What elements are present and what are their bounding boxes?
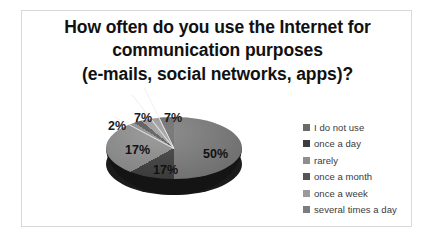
legend-swatch-icon [303,140,310,147]
legend-item-once-a-day[interactable]: once a day [303,136,428,153]
legend-label: once a week [314,188,368,199]
legend-item-once-a-week[interactable]: once a week [303,185,428,202]
data-label-once-a-month: 2% [108,119,126,133]
legend-label: rarely [314,155,338,166]
chart-legend: I do not use once a day rarely once a mo… [303,119,428,218]
data-label-several-times-a-day: 50% [203,147,228,161]
legend-item-i-do-not-use[interactable]: I do not use [303,119,428,136]
data-label-once-a-day: 17% [153,163,178,177]
legend-label: once a day [314,138,361,149]
legend-swatch-icon [303,157,310,164]
legend-swatch-icon [303,190,310,197]
legend-item-once-a-month[interactable]: once a month [303,169,428,186]
chart-title-line-2: communication purposes [30,39,405,62]
legend-label: several times a day [314,204,397,215]
legend-swatch-icon [303,206,310,213]
pie-chart-plot-area: 50% 17% 17% 2% 7% 7% [22,103,302,228]
legend-item-rarely[interactable]: rarely [303,152,428,169]
chart-title-line-1: How often do you use the Internet for [30,16,405,39]
legend-label: once a month [314,171,372,182]
data-label-once-a-week: 7% [134,111,152,125]
chart-frame: How often do you use the Internet for co… [21,10,412,227]
legend-label: I do not use [314,122,364,133]
chart-title: How often do you use the Internet for co… [30,16,405,86]
chart-title-line-3: (e-mails, social networks, apps)? [30,63,405,86]
legend-swatch-icon [303,124,310,131]
data-label-rarely: 17% [125,143,150,157]
legend-swatch-icon [303,173,310,180]
data-label-i-do-not-use: 7% [164,111,182,125]
legend-item-several-times-a-day[interactable]: several times a day [303,202,428,219]
